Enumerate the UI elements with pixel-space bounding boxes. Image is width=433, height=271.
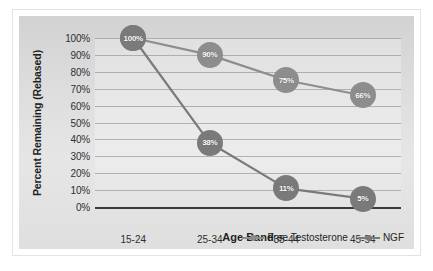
y-axis-tick-label: 0% — [34, 202, 90, 213]
data-point-label: 66% — [350, 82, 376, 108]
y-axis-tick-label: 30% — [34, 151, 90, 162]
y-axis-tick-label: 60% — [34, 100, 90, 111]
y-axis-tick-label: 100% — [34, 33, 90, 44]
y-axis-tick-label: 70% — [34, 83, 90, 94]
y-axis-tick-label: 10% — [34, 185, 90, 196]
y-axis-tick-label: 50% — [34, 117, 90, 128]
chart-legend: Free TestosteroneNGF — [242, 232, 404, 243]
data-point-label: 75% — [273, 67, 299, 93]
y-axis-tick-label: 80% — [34, 66, 90, 77]
y-axis-tick-label: 40% — [34, 134, 90, 145]
data-point-label: 5% — [350, 186, 376, 212]
data-point-label: 100% — [120, 25, 146, 51]
series-lines — [95, 38, 401, 207]
y-axis-tick-label: 90% — [34, 49, 90, 60]
legend-label: Free Testosterone — [267, 232, 347, 243]
data-point-label: 90% — [197, 42, 223, 68]
data-point-label: 11% — [273, 175, 299, 201]
series-line — [133, 38, 363, 199]
legend-label: NGF — [383, 232, 404, 243]
chart-inner-surface: Percent Remaining (Rebased) 100%90%80%70… — [19, 16, 414, 249]
legend-item[interactable]: Free Testosterone — [242, 232, 347, 243]
legend-marker-icon — [242, 233, 264, 242]
legend-marker-icon — [358, 233, 380, 242]
data-point-label: 38% — [197, 130, 223, 156]
plot-area: 100%90%80%70%60%50%40%30%20%10%0% 100%90… — [95, 38, 401, 207]
y-axis-tick-label: 20% — [34, 168, 90, 179]
chart-card: Percent Remaining (Rebased) 100%90%80%70… — [12, 9, 421, 256]
legend-item[interactable]: NGF — [358, 232, 404, 243]
